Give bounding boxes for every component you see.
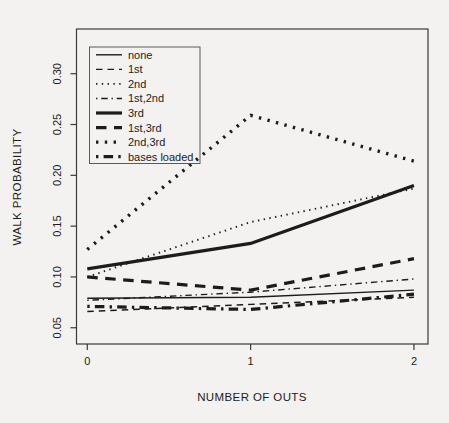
- figure: 0.050.100.150.200.250.30012none1st2nd1st…: [0, 0, 449, 423]
- x-axis-title: NUMBER OF OUTS: [76, 391, 428, 403]
- legend-label-2nd: 2nd: [128, 78, 146, 90]
- legend-label-1st-2nd: 1st,2nd: [128, 92, 164, 104]
- walk-probability-chart: 0.050.100.150.200.250.30012none1st2nd1st…: [0, 0, 449, 423]
- y-tick-label: 0.30: [51, 63, 63, 84]
- y-tick-label: 0.10: [51, 266, 63, 287]
- series-line-1st-3rd: [87, 259, 414, 291]
- series-line-bases-loaded: [87, 294, 414, 309]
- x-tick-label: 0: [84, 355, 90, 367]
- y-axis-title: WALK PROBABILITY: [11, 128, 23, 245]
- legend-label-1st: 1st: [128, 63, 143, 75]
- x-tick-label: 2: [411, 355, 417, 367]
- series-line-3rd: [87, 185, 414, 268]
- legend-label-none: none: [128, 49, 152, 61]
- y-tick-label: 0.25: [51, 114, 63, 135]
- x-tick-label: 1: [248, 355, 254, 367]
- y-tick-label: 0.15: [51, 215, 63, 236]
- legend-label-bases-loaded: bases loaded: [128, 151, 193, 163]
- y-tick-label: 0.20: [51, 165, 63, 186]
- legend-label-3rd: 3rd: [128, 107, 144, 119]
- legend-label-1st-3rd: 1st,3rd: [128, 122, 162, 134]
- y-tick-label: 0.05: [51, 317, 63, 338]
- legend-label-2nd-3rd: 2nd,3rd: [128, 136, 165, 148]
